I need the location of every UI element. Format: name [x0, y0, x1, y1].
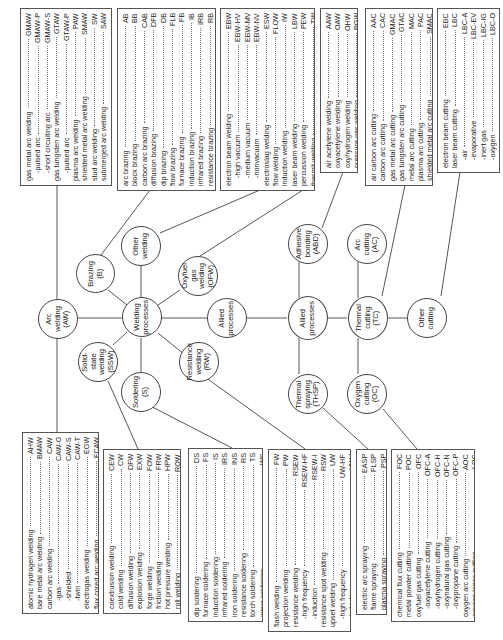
- box-list: dip solderingDS furnace solderingFS indu…: [189, 449, 262, 621]
- list-item: cold weldingCW: [116, 454, 125, 609]
- list-item: stud arc weldingSW: [90, 13, 99, 181]
- list-item: electron beam weldingEBW: [224, 13, 233, 186]
- list-item: air acetylene weldingAAW: [324, 13, 333, 168]
- list-item: resistance brazingRB: [206, 13, 215, 186]
- node-other-welding: Other welding: [121, 226, 161, 266]
- list-item: -evaporativeLBC-EV: [469, 13, 478, 168]
- list-item: explosion weldingEXW: [135, 454, 144, 609]
- list-item: electric arc sprayingEASP: [360, 454, 369, 610]
- list-item: iron solderingINS: [230, 453, 239, 617]
- list-item: oxygen lance cuttingLOC: [470, 454, 475, 617]
- list-item: -short circuiting arcGMAW-S: [43, 13, 52, 181]
- list-item: upset weldingUW: [328, 454, 337, 627]
- list-item: torch brazingTB: [215, 13, 216, 186]
- list-item: oxyfuel gas cuttingOFC: [414, 454, 423, 617]
- list-item: resistance spot weldingRSW: [319, 454, 328, 627]
- list-item: percussion weldingPEW: [299, 13, 308, 186]
- list-item: metal powder cuttingPOC: [404, 454, 413, 617]
- list-item: carbon arc brazingCAB: [140, 13, 149, 186]
- list-item: -seriesSAW-S: [109, 13, 112, 181]
- list-item: pressure gas weldingPGW: [352, 13, 358, 168]
- list-item: forge weldingFOW: [145, 454, 154, 609]
- list-item: -oxyacetylene cuttingOFC-A: [423, 454, 432, 617]
- list-item: -gasCAW-G: [54, 437, 63, 609]
- node-oxyfuel-gas-welding: Oxyfuel gas welding (OFW): [178, 256, 218, 296]
- list-item: flame sprayingFLSP: [369, 454, 378, 610]
- node-solid-state-welding: Solid- state welding (SSW): [78, 342, 118, 382]
- list-item: metal arc cuttingMAC: [407, 13, 416, 181]
- list-item: flux cored arc weldingFCAW: [92, 437, 99, 609]
- box-list: coextrusion weldingCEW cold weldingCW di…: [104, 450, 180, 613]
- list-item: electroslag weldingESW: [262, 13, 271, 186]
- list-item: dip brazingDB: [159, 13, 168, 186]
- list-item: -twinCAW-T: [73, 437, 82, 609]
- list-item: furnace brazingFB: [177, 13, 186, 186]
- node-thermal-spraying: Thermal spraying (THSP): [288, 374, 328, 414]
- list-item: -inductionUW-I: [347, 454, 351, 627]
- list-item: -nonvacuumEBW-NV: [252, 13, 261, 186]
- list-item: induction brazingIB: [187, 13, 196, 186]
- list-item: oxyacetylene weldingOAW: [333, 13, 342, 168]
- list-item: flash weldingFW: [272, 454, 281, 627]
- box-list: electron beam cuttingEBC laser beam cutt…: [438, 9, 499, 172]
- list-item: submerged arc weldingSAW: [99, 13, 108, 181]
- node-arc-cutting: Arc cutting (AC): [347, 224, 387, 264]
- list-item: air carbon arc cuttingAAC: [369, 13, 378, 181]
- list-item: infrared brazingIRB: [196, 13, 205, 186]
- other-cutting-processes-box: electron beam cuttingEBC laser beam cutt…: [437, 8, 500, 173]
- list-item: laser beam cuttingLBC: [450, 13, 459, 168]
- list-item: -shieldedCAW-S: [64, 437, 73, 609]
- node-soldering: Soldering (S): [121, 372, 161, 412]
- box-list: arc brazingAB block brazingBB carbon arc…: [118, 9, 215, 190]
- node-oxygen-cutting: Oxygen cutting (OC): [347, 374, 387, 414]
- list-item: bare metal arc weldingBMAW: [35, 437, 44, 609]
- list-item: -oxypropane cuttingOFC-P: [451, 454, 460, 617]
- list-item: induction solderingIS: [211, 453, 220, 617]
- node-brazing: Brazing (B): [76, 254, 115, 293]
- solid-state-welding-processes-box: coextrusion weldingCEW cold weldingCW di…: [103, 449, 181, 614]
- brazing-processes-box: arc brazingAB block brazingBB carbon arc…: [117, 8, 216, 191]
- list-item: coextrusion weldingCEW: [107, 454, 116, 609]
- box-list: electron beam weldingEBW -high vacuumEBW…: [221, 9, 314, 190]
- node-other-cutting: Other cutting: [407, 298, 447, 338]
- list-item: gas tungsten arc cuttingGTAC: [397, 13, 406, 181]
- list-item: flow weldingFLOW: [271, 13, 280, 186]
- list-item: furnace solderingFS: [201, 453, 210, 617]
- node-adhesive-bonding: Adhesive bonding (ABD): [288, 224, 328, 264]
- node-allied-processes: Allied processes: [288, 296, 328, 340]
- list-item: -pulsed arcGTAW-P: [62, 13, 71, 181]
- list-item: -oxynatural gas cuttingOFC-N: [442, 454, 451, 617]
- list-item: -inert gasLBC-IG: [479, 13, 488, 168]
- list-item: friction weldingFRW: [154, 454, 163, 609]
- list-item: -medium vacuumEBW-MV: [243, 13, 252, 186]
- node-thermal-cutting: Thermal cutting (TC): [348, 296, 388, 340]
- list-item: shielded metal arc cuttingSMAC: [425, 13, 433, 181]
- list-item: gas metal arc weldingGMAW: [24, 13, 33, 181]
- list-item: gas tungsten arc weldingGTAW: [52, 13, 61, 181]
- list-item: induction weldingIW: [280, 13, 289, 186]
- list-item: electrogas weldingEGW: [82, 437, 91, 609]
- list-item: resistance weldingRSEW: [291, 454, 300, 627]
- other-welding-processes-box: electron beam weldingEBW -high vacuumEBW…: [220, 8, 315, 191]
- list-item: chemical flux cuttingFOC: [395, 454, 404, 617]
- box-list: gas metal arc weldingGMAW -pulsed arcGMA…: [21, 9, 111, 185]
- box-list: electric arc sprayingEASP flame spraying…: [357, 450, 386, 614]
- list-item: flow brazingFLB: [168, 13, 177, 186]
- list-item: infrared solderingIRS: [220, 453, 229, 617]
- arc-welding-processes-box-bottom: atomic hydrogen weldingAHW bare metal ar…: [22, 432, 99, 614]
- node-welding-processes: Welding processes: [122, 297, 162, 337]
- list-item: shielded metal arc weldingSMAW: [80, 13, 89, 181]
- list-item: carbon arc cuttingCAC: [378, 13, 387, 181]
- list-item: hot pressure weldingHPW: [163, 454, 172, 609]
- list-item: wave solderingWS: [258, 453, 263, 617]
- node-resistance-welding: Resistance welding (RW): [179, 342, 219, 382]
- list-item: diffusion brazingDFB: [149, 13, 158, 186]
- soldering-processes-box: dip solderingDS furnace solderingFS indu…: [188, 448, 263, 622]
- list-item: -airLBC-A: [460, 13, 469, 168]
- list-item: laser beam weldingLBW: [290, 13, 299, 186]
- node-arc-welding: Arc welding (AW): [38, 299, 78, 339]
- list-item: -oxyhydrogen cuttingOFC-H: [433, 454, 442, 617]
- oxyfuel-gas-welding-processes-box: air acetylene weldingAAW oxyacetylene we…: [320, 8, 358, 173]
- list-item: atomic hydrogen weldingAHW: [26, 437, 35, 609]
- node-allied-processes-link: Allied processes: [207, 298, 247, 338]
